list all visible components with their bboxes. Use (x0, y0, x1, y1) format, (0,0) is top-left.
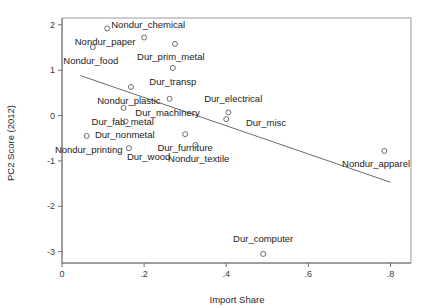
y-tick-label: -3 (47, 247, 55, 257)
point-label: Nondur_printing (55, 144, 123, 155)
scatter-chart: 0.2.4.6.8 210-1-2-3 Nondur_paperNondur_f… (0, 0, 435, 308)
point-marker (167, 96, 172, 101)
point-label: Dur_electrical (204, 93, 262, 104)
y-tick-label: -2 (47, 201, 55, 211)
chart-canvas: 0.2.4.6.8 210-1-2-3 Nondur_paperNondur_f… (0, 0, 435, 308)
point-marker (172, 41, 177, 46)
point-label: Dur_wood (127, 151, 170, 162)
data-point: Dur_electrical (204, 93, 262, 115)
x-tick-label: 0 (59, 269, 64, 279)
y-tick-label: 2 (50, 20, 55, 30)
point-label: Dur_misc (246, 117, 286, 128)
point-marker (121, 105, 126, 110)
data-points: Nondur_paperNondur_foodNondur_chemicalDu… (55, 19, 410, 256)
point-marker (226, 110, 231, 115)
point-marker (84, 133, 89, 138)
x-tick-label: .8 (387, 269, 395, 279)
point-label: Nondur_chemical (111, 19, 185, 30)
y-tick-label: 1 (50, 65, 55, 75)
point-marker (183, 132, 188, 137)
point-label: Nondur_food (63, 55, 118, 66)
point-marker (382, 148, 387, 153)
point-marker (261, 251, 266, 256)
point-marker (105, 26, 110, 31)
point-label: Dur_computer (233, 233, 293, 244)
point-marker (142, 35, 147, 40)
data-point: Dur_misc (224, 117, 287, 128)
data-point: Nondur_food (63, 45, 118, 66)
x-tick-label: .2 (140, 269, 148, 279)
x-axis: 0.2.4.6.8 (59, 263, 411, 279)
x-axis-title: Import Share (210, 294, 265, 305)
point-marker (170, 65, 175, 70)
data-point: Nondur_plastic (97, 84, 161, 105)
y-tick-label: -1 (47, 156, 55, 166)
point-label: Dur_prim_metal (137, 51, 205, 62)
point-label: Nondur_paper (75, 36, 136, 47)
data-point: Dur_transp (149, 65, 196, 86)
x-tick-label: .6 (305, 269, 313, 279)
point-label: Dur_nonmetal (95, 129, 155, 140)
x-tick-label: .4 (222, 269, 230, 279)
point-label: Nondur_apparel (342, 158, 410, 169)
y-tick-label: 0 (50, 111, 55, 121)
point-marker (128, 84, 133, 89)
point-label: Nondur_plastic (97, 95, 161, 106)
data-point: Nondur_apparel (342, 148, 410, 168)
point-label: Dur_transp (149, 76, 196, 87)
data-point: Dur_computer (233, 233, 293, 256)
y-axis-title: PC2 Score (2012) (5, 105, 16, 181)
point-marker (224, 117, 229, 122)
data-point: Dur_prim_metal (137, 41, 205, 61)
y-axis: 210-1-2-3 (47, 18, 62, 263)
point-label: Nondur_textile (168, 153, 229, 164)
